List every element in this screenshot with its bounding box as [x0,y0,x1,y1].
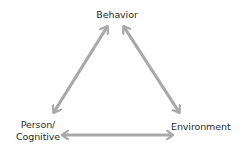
node-label-behavior: Behavior [96,9,138,21]
node-label-person-line2: Cognitive [16,131,60,143]
node-label-person-line1: Person/ [16,119,60,131]
diagram-canvas: Behavior Person/ Cognitive Environment [0,0,242,153]
arrow-behavior-person [54,27,107,112]
node-label-environment: Environment [171,121,231,133]
arrow-behavior-environment [124,27,179,112]
node-label-person-cognitive: Person/ Cognitive [16,119,60,143]
